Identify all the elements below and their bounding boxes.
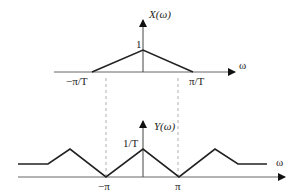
- top-y-label: X(ω): [149, 9, 171, 20]
- top-left-tick: −π/T: [66, 76, 88, 87]
- top-right-tick: π/T: [189, 76, 204, 87]
- bottom-plot: [18, 121, 285, 177]
- top-peak-label: 1: [136, 39, 142, 50]
- bottom-peak-label: 1/T: [123, 138, 138, 149]
- spectrum-diagram: X(ω) ω 1 −π/T π/T Y(ω) ω 1/T −π π: [0, 0, 295, 192]
- bottom-left-tick: −π: [98, 181, 110, 192]
- top-plot: [54, 20, 235, 72]
- bottom-x-label: ω: [276, 157, 283, 168]
- bottom-right-tick: π: [175, 181, 181, 192]
- diagram-graphics: [0, 0, 295, 192]
- bottom-y-label: Y(ω): [154, 121, 175, 132]
- top-x-label: ω: [239, 60, 246, 71]
